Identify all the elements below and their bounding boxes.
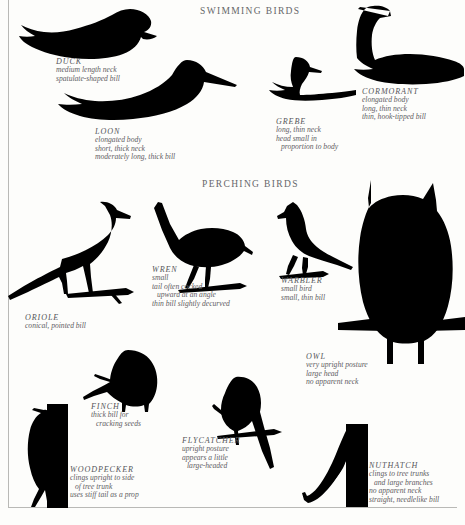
nuthatch-silhouette (302, 424, 368, 508)
section-heading-perching-birds: PERCHING BIRDS (202, 179, 299, 189)
caption-cormorant-line-3: thin, hook-tipped bill (362, 113, 426, 121)
caption-warbler-line-2: small, thin bill (281, 294, 325, 302)
woodpecker-silhouette (14, 404, 69, 509)
loon-silhouette (56, 58, 238, 128)
caption-nuthatch: NUTHATCH clings to tree trunks and large… (369, 462, 439, 504)
caption-oriole-line-1: conical, pointed bill (25, 322, 86, 330)
owl-silhouette (338, 178, 465, 364)
caption-grebe: GREBE long, thin neck head small in prop… (276, 118, 338, 152)
caption-woodpecker-line-3: uses stiff tail as a prop (70, 491, 139, 499)
plate-bottom-rule (8, 507, 457, 508)
caption-loon: LOON elongated body short, thick neck mo… (95, 128, 175, 162)
caption-nuthatch-line-4: straight, needlelike bill (369, 496, 439, 504)
caption-finch: FINCH thick bill for cracking seeds (91, 403, 141, 428)
caption-woodpecker: WOODPECKER clings upright to side of tre… (70, 466, 139, 500)
caption-oriole: ORIOLE conical, pointed bill (25, 314, 86, 331)
caption-wren: WREN small tail often cocked upward at a… (152, 266, 230, 308)
bird-silhouette-plate: SWIMMING BIRDS DUCK medium length neck s… (0, 0, 465, 525)
oriole-silhouette (6, 197, 136, 327)
caption-flycatcher-line-3: large-headed (182, 462, 240, 470)
caption-flycatcher: FLYCATCHER upright posture appears a lit… (182, 437, 240, 471)
duck-silhouette (18, 6, 158, 61)
caption-finch-line-2: cracking seeds (91, 420, 141, 428)
caption-grebe-line-3: proportion to body (276, 143, 338, 151)
cormorant-silhouette (320, 4, 465, 88)
caption-cormorant: CORMORANT elongated body long, thin neck… (362, 88, 426, 122)
section-heading-swimming-birds: SWIMMING BIRDS (200, 6, 300, 16)
caption-owl: OWL very upright posture large head no a… (306, 353, 368, 387)
caption-loon-line-3: moderately long, thick bill (95, 153, 175, 161)
caption-owl-line-3: no apparent neck (306, 378, 368, 386)
caption-warbler: WARBLER small bird small, thin bill (281, 277, 325, 302)
caption-wren-line-4: thin bill slightly decurved (152, 300, 230, 308)
